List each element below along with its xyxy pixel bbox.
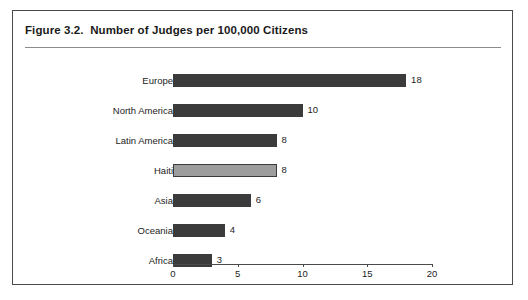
bar-category-label: Oceania: [25, 224, 173, 237]
bar-row: North America10: [13, 101, 511, 131]
bar-north-america: [173, 104, 303, 117]
bar-category-label: Haiti: [25, 164, 173, 177]
x-axis-tick: [173, 264, 174, 267]
bar-category-label: Latin America: [25, 134, 173, 147]
bar-category-label: Africa: [25, 254, 173, 267]
x-axis-tick: [367, 264, 368, 267]
figure-title: Figure 3.2. Number of Judges per 100,000…: [25, 24, 308, 36]
x-axis-tick-label: 20: [427, 268, 438, 279]
bar-category-label: Asia: [25, 194, 173, 207]
bar-row: Europe18: [13, 71, 511, 101]
x-axis-tick-label: 5: [235, 268, 240, 279]
bar-row: Haiti8: [13, 161, 511, 191]
bar-value-label: 8: [282, 133, 287, 146]
bar-value-label: 8: [282, 163, 287, 176]
x-axis-tick-label: 10: [297, 268, 308, 279]
bar-category-label: Europe: [25, 74, 173, 87]
bar-row: Oceania4: [13, 221, 511, 251]
x-axis-tick-label: 15: [362, 268, 373, 279]
x-axis-tick-label: 0: [170, 268, 175, 279]
bar-value-label: 6: [256, 193, 261, 206]
bar-category-label: North America: [25, 104, 173, 117]
figure-root: Figure 3.2. Number of Judges per 100,000…: [0, 0, 528, 300]
bar-haiti: [173, 164, 277, 177]
bar-chart-plot-area: Europe18North America10Latin America8Hai…: [13, 53, 511, 283]
bar-row: Asia6: [13, 191, 511, 221]
bar-row: Latin America8: [13, 131, 511, 161]
x-axis-tick: [432, 264, 433, 267]
bar-value-label: 10: [308, 103, 319, 116]
x-axis-tick: [238, 264, 239, 267]
bar-latin-america: [173, 134, 277, 147]
bar-europe: [173, 74, 406, 87]
title-divider: [25, 47, 501, 48]
bar-asia: [173, 194, 251, 207]
bar-oceania: [173, 224, 225, 237]
bar-value-label: 18: [411, 73, 422, 86]
figure-frame: Figure 3.2. Number of Judges per 100,000…: [12, 10, 513, 285]
bar-africa: [173, 254, 212, 267]
x-axis-tick: [303, 264, 304, 267]
bar-value-label: 4: [230, 223, 235, 236]
